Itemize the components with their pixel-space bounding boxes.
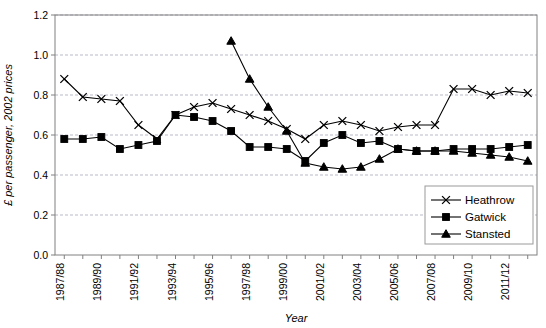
data-point-stansted: [227, 37, 236, 45]
data-point-gatwick: [209, 118, 216, 125]
xtick-label: 1991/92: [128, 263, 140, 301]
xtick-label: 1993/94: [166, 263, 178, 301]
data-point-stansted: [264, 103, 273, 111]
data-point-gatwick: [320, 140, 327, 147]
data-point-gatwick: [339, 132, 346, 139]
ytick-label: 1.0: [33, 49, 48, 61]
xtick-label: 2001/02: [314, 263, 326, 301]
y-axis-title: £ per passenger, 2002 prices: [2, 64, 14, 207]
xtick-label: 1997/98: [240, 263, 252, 301]
series-line-heathrow: [64, 79, 527, 139]
data-point-gatwick: [265, 144, 272, 151]
ytick-label: 0.0: [33, 249, 48, 261]
xtick-label: 2011/12: [499, 263, 511, 300]
data-point-stansted: [245, 75, 254, 83]
ytick-label: 1.2: [33, 9, 48, 21]
legend-label-heathrow: Heathrow: [465, 194, 515, 206]
xtick-label: 1989/90: [91, 263, 103, 301]
data-point-gatwick: [172, 112, 179, 119]
line-chart: 0.00.20.40.60.81.01.21987/881989/901991/…: [0, 0, 546, 328]
data-point-gatwick: [524, 142, 531, 149]
xtick-label: 1995/96: [203, 263, 215, 301]
data-point-gatwick: [283, 146, 290, 153]
data-point-gatwick: [154, 138, 161, 145]
data-point-gatwick: [357, 140, 364, 147]
data-point-gatwick: [506, 144, 513, 151]
data-point-gatwick: [228, 128, 235, 135]
data-point-stansted: [375, 155, 384, 163]
data-point-gatwick: [61, 136, 68, 143]
xtick-label: 2007/08: [425, 263, 437, 301]
xtick-label: 2003/04: [351, 263, 363, 301]
ytick-label: 0.8: [33, 89, 48, 101]
ytick-label: 0.4: [33, 169, 48, 181]
data-point-gatwick: [376, 138, 383, 145]
legend-label-stansted: Stansted: [465, 228, 510, 240]
xtick-label: 1999/00: [277, 263, 289, 301]
series-line-stansted: [231, 41, 528, 169]
ytick-label: 0.6: [33, 129, 48, 141]
chart-container: 0.00.20.40.60.81.01.21987/881989/901991/…: [0, 0, 546, 328]
data-point-stansted: [357, 163, 366, 171]
x-axis-title: Year: [285, 312, 309, 324]
data-point-gatwick: [135, 142, 142, 149]
xtick-label: 2009/10: [462, 263, 474, 301]
data-point-gatwick: [191, 114, 198, 121]
xtick-label: 1987/88: [54, 263, 66, 301]
legend-label-gatwick: Gatwick: [465, 211, 506, 223]
ytick-label: 0.2: [33, 209, 48, 221]
data-point-gatwick: [246, 144, 253, 151]
data-point-gatwick: [98, 134, 105, 141]
legend-marker-gatwick: [443, 214, 450, 221]
xtick-label: 2005/06: [388, 263, 400, 301]
data-point-gatwick: [79, 136, 86, 143]
data-point-gatwick: [116, 146, 123, 153]
